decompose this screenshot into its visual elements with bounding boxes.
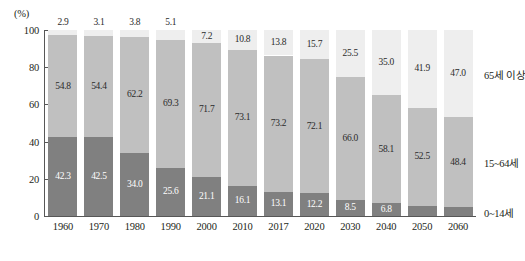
- bar-segment: 25.6: [156, 168, 185, 216]
- bar-segment-value: 58.1: [378, 145, 393, 155]
- bar-segment-value: 41.9: [414, 64, 429, 74]
- bar-segment-value: 62.2: [127, 90, 142, 100]
- bar-segment-value: 13.1: [271, 199, 286, 209]
- bar-segment: 71.7: [192, 43, 221, 176]
- bar-segment: 8.5: [336, 200, 365, 216]
- legend-item-working-age: 15~64세: [484, 155, 519, 170]
- bar-segment: 73.2: [264, 56, 293, 192]
- bar-column: 6.858.135.0: [372, 30, 401, 216]
- bar-segment: 7.2: [192, 30, 221, 43]
- bar-segment: 12.2: [300, 193, 329, 216]
- bar-column: 42.354.82.9: [48, 30, 77, 216]
- bar-segment: [444, 207, 473, 216]
- bar-segment: [156, 30, 185, 39]
- bar-segment-value: 54.8: [55, 82, 70, 92]
- y-axis-tick-label: 0: [0, 211, 39, 222]
- bar-segment: 54.8: [48, 35, 77, 137]
- bar-segment-value: 3.1: [80, 18, 117, 28]
- bar-segment: 42.3: [48, 137, 77, 216]
- bar-segment-value: 42.3: [55, 172, 70, 182]
- bar-segment-value: 54.4: [91, 82, 106, 92]
- bar-segment-value: 35.0: [378, 58, 393, 68]
- y-axis-tick-label: 60: [0, 99, 39, 110]
- x-axis-tick-label: 2060: [436, 221, 481, 232]
- bar-segment-value: 42.5: [91, 172, 106, 182]
- bar-segment-value: 52.5: [414, 152, 429, 162]
- bar-segment: 42.5: [84, 137, 113, 216]
- bar-segment-value: 25.6: [163, 187, 178, 197]
- legend-item-children: 0~14세: [484, 204, 514, 219]
- y-axis-tick-label: 40: [0, 136, 39, 147]
- bar-segment-value: 69.3: [163, 99, 178, 109]
- bar-segment-value: 16.1: [235, 196, 250, 206]
- bar-segment: 15.7: [300, 30, 329, 59]
- bar-column: 48.447.0: [444, 30, 473, 216]
- bar-segment-value: 48.4: [450, 158, 465, 168]
- bar-segment: 72.1: [300, 59, 329, 193]
- bar-segment-value: 2.9: [44, 18, 81, 28]
- bar-segment-value: 15.7: [307, 40, 322, 50]
- bar-segment: 21.1: [192, 177, 221, 216]
- bar-segment: [48, 30, 77, 35]
- bar-column: 16.173.110.8: [228, 30, 257, 216]
- bar-segment: 52.5: [408, 108, 437, 206]
- bar-segment-value: 5.1: [152, 18, 189, 28]
- bar-column: 42.554.43.1: [84, 30, 113, 216]
- bar-segment: 13.8: [264, 30, 293, 56]
- bar-segment-value: 71.7: [199, 105, 214, 115]
- bar-segment-value: 12.2: [307, 200, 322, 210]
- y-axis-tick: [44, 216, 49, 217]
- x-axis-line: [44, 216, 476, 217]
- bar-segment: 16.1: [228, 186, 257, 216]
- y-axis-tick-label: 20: [0, 173, 39, 184]
- bar-segment-value: 73.2: [271, 119, 286, 129]
- bar-segment-value: 10.8: [235, 35, 250, 45]
- bar-segment: 58.1: [372, 95, 401, 203]
- plot-area: 42.354.82.942.554.43.134.062.23.825.669.…: [45, 30, 476, 216]
- bar-segment: 73.1: [228, 50, 257, 186]
- bar-segment-value: 3.8: [116, 18, 153, 28]
- bar-segment: 6.8: [372, 203, 401, 216]
- bar-segment: [84, 30, 113, 36]
- bar-segment-value: 47.0: [450, 69, 465, 79]
- bar-column: 13.173.213.8: [264, 30, 293, 216]
- y-axis-unit-label: (%): [14, 8, 29, 19]
- bar-column: 21.171.77.2: [192, 30, 221, 216]
- bar-segment-value: 13.8: [271, 38, 286, 48]
- bar-column: 34.062.23.8: [120, 30, 149, 216]
- bar-segment-value: 7.2: [201, 32, 212, 42]
- bar-segment: 13.1: [264, 192, 293, 216]
- bar-segment: 41.9: [408, 30, 437, 108]
- bar-segment-value: 66.0: [343, 134, 358, 144]
- y-axis-tick-label: 80: [0, 62, 39, 73]
- bar-segment-value: 73.1: [235, 113, 250, 123]
- bar-segment-value: 6.8: [381, 205, 392, 215]
- bar-segment: 48.4: [444, 117, 473, 207]
- bar-column: 12.272.115.7: [300, 30, 329, 216]
- bar-segment: [120, 30, 149, 37]
- bar-segment-value: 8.5: [345, 203, 356, 213]
- bar-segment: 62.2: [120, 37, 149, 153]
- bar-segment: 35.0: [372, 30, 401, 95]
- bar-segment: 47.0: [444, 30, 473, 117]
- bar-segment-value: 21.1: [199, 192, 214, 202]
- bar-segment: 69.3: [156, 40, 185, 169]
- bar-segment-value: 72.1: [307, 122, 322, 132]
- bar-segment-value: 25.5: [343, 49, 358, 59]
- legend-item-elderly: 65세 이상: [484, 66, 525, 81]
- bar-segment: 66.0: [336, 77, 365, 200]
- y-axis-tick-label: 100: [0, 25, 39, 36]
- bar-segment: [408, 206, 437, 216]
- bar-column: 25.669.35.1: [156, 30, 185, 216]
- bar-segment-value: 34.0: [127, 180, 142, 190]
- bar-column: 8.566.025.5: [336, 30, 365, 216]
- bar-segment: 34.0: [120, 153, 149, 216]
- bar-column: 52.541.9: [408, 30, 437, 216]
- bar-segment: 25.5: [336, 30, 365, 77]
- bar-segment: 10.8: [228, 30, 257, 50]
- bar-segment: 54.4: [84, 36, 113, 137]
